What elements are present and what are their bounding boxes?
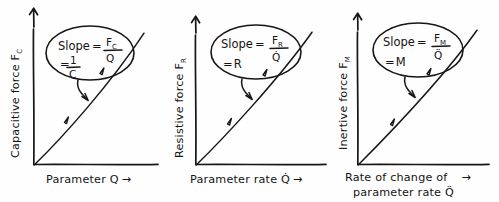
y-axis-line xyxy=(357,32,358,165)
x-axis-label: Parameter Q→ xyxy=(46,173,131,186)
annotation-fraction-numerator: FC xyxy=(106,36,117,51)
y-axis-arrowhead-icon xyxy=(30,8,38,27)
line-direction-marker-icon xyxy=(263,70,267,77)
three-panel-constitutive-law-figure: Capacitive force FC Parameter Q→ Slope= … xyxy=(0,0,499,202)
inertive-force-line xyxy=(358,30,477,165)
line-direction-marker-icon xyxy=(100,68,104,75)
y-axis-arrowhead-icon xyxy=(354,13,362,30)
annotation-fraction-bar xyxy=(270,48,288,49)
y-axis-arrowhead-icon xyxy=(192,16,200,33)
annotation-second-numerator: 1 xyxy=(70,54,77,66)
x-axis-label-line1: Rate of change of→ xyxy=(345,171,471,184)
annotation-fraction-denominator: Q xyxy=(106,52,114,64)
y-axis-line xyxy=(33,29,34,165)
y-axis-label: Inertive force FM xyxy=(337,56,352,150)
annotation-slope-label: Slope= xyxy=(58,39,102,53)
annotation-second-denominator: C xyxy=(69,68,76,80)
annotation-slope-label: Slope= xyxy=(383,35,427,49)
x-axis-label-line2: parameter rate Q̈ xyxy=(353,186,454,199)
line-direction-marker-icon xyxy=(427,69,431,76)
line-direction-marker-icon xyxy=(391,119,395,126)
x-axis-label: Parameter rate Q̇→ xyxy=(190,173,303,186)
y-axis-label: Capacitive force FC xyxy=(9,49,24,158)
annotation-second-value: =R xyxy=(223,57,242,71)
panel-resistive: Resistive force FR Parameter rate Q̇→ Sl… xyxy=(166,0,333,202)
line-direction-marker-icon xyxy=(228,119,232,126)
y-axis-label: Resistive force FR xyxy=(173,58,188,158)
y-axis-line xyxy=(195,35,196,165)
panel-inertive: Inertive force FM Rate of change of→ par… xyxy=(333,0,499,202)
annotation-slope-label: Slope= xyxy=(221,37,265,51)
annotation-fraction-numerator: FM xyxy=(434,32,446,47)
annotation-fraction-bar xyxy=(432,46,450,47)
annotation-fraction-denominator: Q̈ xyxy=(434,49,442,61)
resistive-force-line xyxy=(196,32,312,165)
panel-capacitive: Capacitive force FC Parameter Q→ Slope= … xyxy=(0,0,166,202)
annotation-fraction-bar xyxy=(104,50,122,51)
annotation-second-value: =M xyxy=(385,55,406,69)
line-direction-marker-icon xyxy=(65,117,69,124)
annotation-fraction-denominator: Q̇ xyxy=(272,51,280,63)
annotation-fraction-numerator: FR xyxy=(272,34,283,49)
annotation-bubble xyxy=(46,26,134,80)
